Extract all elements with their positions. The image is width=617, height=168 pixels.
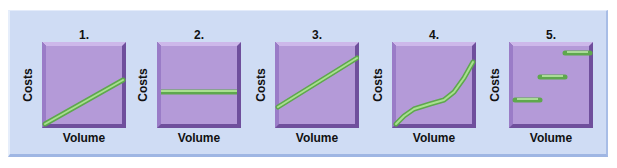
- step-segment-3: [565, 52, 590, 53]
- chart-number: 3.: [275, 28, 359, 42]
- plot-area: [42, 42, 126, 128]
- chart-number: 2.: [157, 28, 241, 42]
- plot-area: [509, 42, 593, 128]
- chart-number: 1.: [42, 28, 126, 42]
- plot-area: [392, 42, 476, 128]
- x-axis-label: Volume: [392, 131, 476, 145]
- x-axis-label: Volume: [509, 131, 593, 145]
- x-axis-label: Volume: [42, 131, 126, 145]
- x-axis-label: Volume: [157, 131, 241, 145]
- chart-number: 4.: [392, 28, 476, 42]
- step-segment-2: [540, 76, 565, 77]
- chart-number: 5.: [509, 28, 593, 42]
- y-axis-label: Costs: [371, 65, 385, 105]
- x-axis-label: Volume: [275, 131, 359, 145]
- y-axis-label: Costs: [254, 65, 268, 105]
- y-axis-label: Costs: [21, 65, 35, 105]
- plot-area: [275, 42, 359, 128]
- plot-area: [157, 42, 241, 128]
- y-axis-label: Costs: [136, 65, 150, 105]
- y-axis-label: Costs: [488, 65, 502, 105]
- step-segment-1: [515, 99, 540, 100]
